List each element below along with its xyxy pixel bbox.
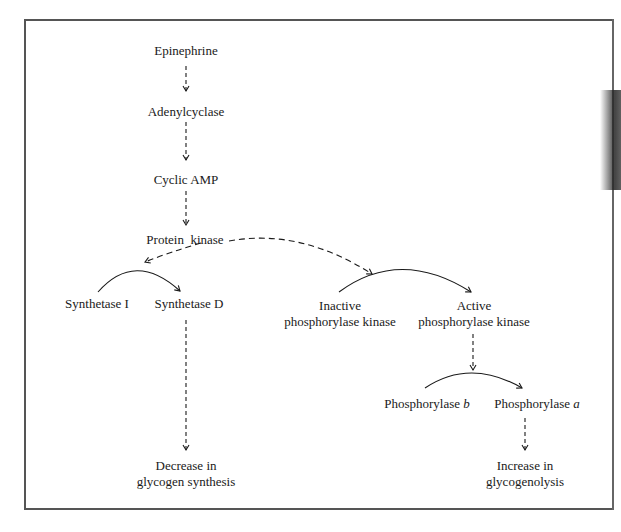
active-pk-line1: Active (404, 298, 544, 314)
decrease-line1: Decrease in (121, 458, 251, 474)
arc-synthetase-i-to-d (98, 271, 180, 292)
increase-line1: Increase in (470, 458, 580, 474)
arrow-layer (0, 0, 621, 532)
arrow-pk-to-phosphorylase-kinase (229, 238, 372, 274)
node-cyclic-amp: Cyclic AMP (141, 172, 231, 188)
node-phosphorylase-b: Phosphorylase b (372, 396, 482, 412)
node-synthetase-i: Synthetase I (52, 296, 142, 312)
phos-b-text: Phosphorylase (384, 396, 463, 411)
node-increase-glycogenolysis: Increase in glycogenolysis (470, 458, 580, 490)
inactive-pk-line2: phosphorylase kinase (270, 314, 410, 330)
active-pk-line2: phosphorylase kinase (404, 314, 544, 330)
arc-inactive-to-active-pk (339, 270, 471, 293)
increase-line2: glycogenolysis (470, 474, 580, 490)
arc-phosphorylase-b-to-a (425, 373, 522, 388)
inactive-pk-line1: Inactive (270, 298, 410, 314)
node-decrease-glycogen-synthesis: Decrease in glycogen synthesis (121, 458, 251, 490)
node-protein-kinase: Protein kinase (138, 232, 232, 248)
node-phosphorylase-a: Phosphorylase a (482, 396, 592, 412)
node-epinephrine: Epinephrine (146, 43, 226, 59)
phos-a-italic: a (573, 396, 580, 411)
node-active-phosphorylase-kinase: Active phosphorylase kinase (404, 298, 544, 330)
decrease-line2: glycogen synthesis (121, 474, 251, 490)
node-inactive-phosphorylase-kinase: Inactive phosphorylase kinase (270, 298, 410, 330)
node-synthetase-d: Synthetase D (144, 296, 234, 312)
phos-a-text: Phosphorylase (494, 396, 573, 411)
phos-b-italic: b (463, 396, 470, 411)
node-adenylcyclase: Adenylcyclase (136, 104, 236, 120)
